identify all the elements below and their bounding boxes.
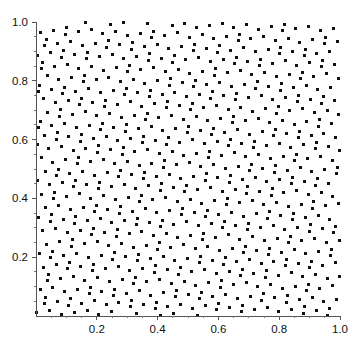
data-point	[308, 266, 311, 269]
data-point	[336, 166, 339, 169]
data-point	[182, 243, 185, 246]
data-point	[152, 66, 155, 69]
data-point	[157, 116, 160, 119]
data-point	[70, 76, 73, 79]
y-tick-label: 0.2	[12, 251, 28, 263]
data-point	[89, 286, 92, 289]
data-point	[173, 91, 176, 94]
data-point	[192, 49, 195, 52]
data-point	[226, 197, 229, 200]
data-point	[245, 23, 248, 26]
data-point	[138, 164, 141, 167]
data-point	[54, 227, 57, 230]
data-point	[271, 98, 274, 101]
data-point	[201, 70, 204, 73]
data-point	[327, 182, 330, 185]
data-point	[178, 104, 181, 107]
data-point	[301, 107, 304, 110]
data-point	[225, 35, 228, 38]
data-point	[295, 153, 298, 156]
data-point	[103, 105, 106, 108]
data-point	[138, 289, 141, 292]
data-point	[92, 227, 95, 230]
data-point	[169, 246, 172, 249]
data-point	[253, 308, 256, 311]
data-point	[149, 257, 152, 260]
data-point	[104, 99, 107, 102]
data-point	[209, 186, 212, 189]
data-point	[272, 260, 275, 263]
data-point	[74, 90, 77, 93]
data-point	[67, 304, 70, 307]
data-point	[80, 302, 83, 305]
data-point	[56, 300, 59, 303]
data-point	[99, 91, 102, 94]
data-point	[86, 219, 89, 222]
data-point	[42, 97, 45, 100]
data-point	[321, 227, 324, 230]
data-point	[246, 185, 249, 188]
data-point	[142, 177, 145, 180]
data-point	[311, 296, 314, 299]
data-point	[234, 224, 237, 227]
data-point	[260, 262, 263, 265]
data-point	[239, 69, 242, 72]
data-point	[247, 222, 250, 225]
data-point	[128, 232, 131, 235]
data-point	[244, 155, 247, 158]
data-point	[86, 309, 89, 312]
data-point	[205, 83, 208, 86]
data-point	[149, 89, 152, 92]
data-point	[43, 44, 46, 47]
data-point	[282, 155, 285, 158]
data-point	[256, 285, 259, 288]
data-point	[81, 44, 84, 47]
data-point	[171, 150, 174, 153]
data-point	[159, 225, 162, 228]
data-point	[67, 99, 70, 102]
data-point	[259, 58, 262, 61]
data-point	[204, 215, 207, 218]
data-point	[205, 172, 208, 175]
data-point	[80, 133, 83, 136]
data-point	[85, 57, 88, 60]
data-point	[50, 124, 53, 127]
data-point	[60, 313, 63, 316]
data-point	[177, 273, 180, 276]
data-point	[164, 196, 167, 199]
x-tick-label: 0.6	[210, 323, 226, 335]
data-point	[320, 65, 323, 68]
data-point	[236, 128, 239, 131]
data-point	[61, 181, 64, 184]
data-point	[304, 252, 307, 255]
data-point	[132, 78, 135, 81]
data-point	[153, 102, 156, 105]
data-point	[308, 230, 311, 233]
y-tick-label: 0.6	[12, 134, 28, 146]
data-point	[279, 46, 282, 49]
data-point	[163, 159, 166, 162]
data-point	[336, 40, 339, 43]
data-point	[195, 26, 198, 29]
data-point	[256, 80, 259, 83]
data-point	[246, 60, 249, 63]
data-point	[284, 59, 287, 62]
data-point	[149, 294, 152, 297]
data-point	[283, 23, 286, 26]
data-point	[82, 206, 85, 209]
data-point	[121, 153, 124, 156]
data-point	[262, 35, 265, 38]
data-point	[107, 39, 110, 42]
data-point	[161, 219, 164, 222]
data-point	[224, 167, 227, 170]
data-point	[328, 307, 331, 310]
data-point	[162, 255, 165, 258]
data-point	[239, 106, 242, 109]
data-point	[143, 82, 146, 85]
data-point	[278, 52, 281, 55]
data-point	[313, 237, 316, 240]
data-point	[240, 142, 243, 145]
data-point	[224, 256, 227, 259]
data-point	[93, 299, 96, 302]
data-point	[120, 242, 123, 245]
